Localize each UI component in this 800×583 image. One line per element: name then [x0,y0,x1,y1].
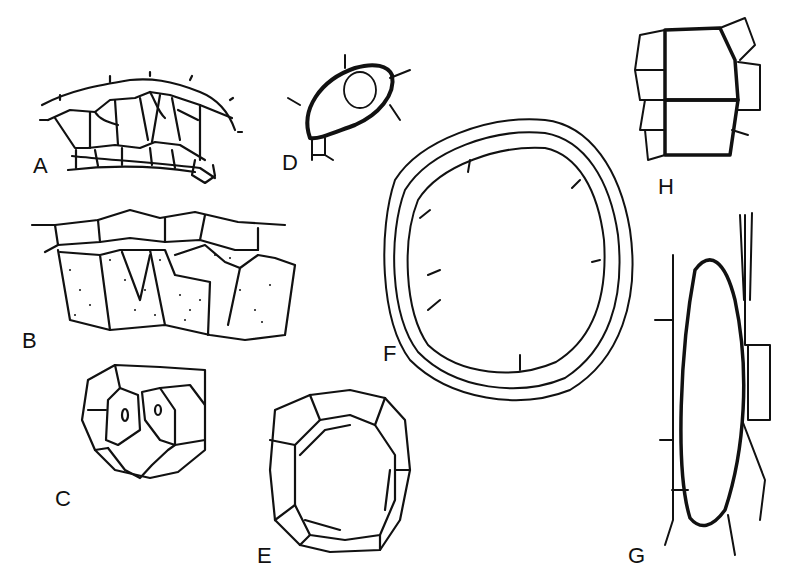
panel-label-f: F [383,343,396,365]
panel-d-drawing [288,55,410,160]
panel-f-drawing [384,119,632,400]
panel-e-drawing [270,390,410,552]
panel-a-drawing [40,72,242,183]
panel-label-g: G [628,545,645,567]
figure-drawing [0,0,800,583]
panel-g-drawing [655,213,770,555]
panel-h-drawing [635,18,760,160]
panel-c-drawing [82,365,205,478]
panel-label-d: D [282,152,298,174]
panel-label-a: A [33,155,48,177]
panel-label-h: H [658,176,674,198]
panel-b-drawing [32,210,295,340]
panel-label-e: E [257,545,272,567]
panel-label-b: B [22,330,37,352]
figure: A B C D E F G H [0,0,800,583]
panel-label-c: C [55,488,71,510]
